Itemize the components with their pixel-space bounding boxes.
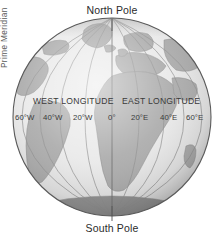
prime-meridian-label: Prime Meridian — [0, 0, 14, 76]
longitude-tick-40: 40°E — [160, 113, 177, 122]
longitude-tick--60: 60°W — [15, 113, 35, 122]
longitude-tick-20: 20°E — [131, 113, 148, 122]
longitude-tick-60: 60°E — [186, 113, 203, 122]
longitude-tick--20: 20°W — [73, 113, 93, 122]
east-longitude-label: EAST LONGITUDE — [122, 96, 200, 106]
longitude-tick-0: 0° — [108, 113, 116, 122]
north-pole-label: North Pole — [0, 4, 224, 16]
west-longitude-label: WEST LONGITUDE — [33, 96, 114, 106]
longitude-tick--40: 40°W — [43, 113, 63, 122]
south-pole-label: South Pole — [0, 222, 224, 234]
globe-diagram: North Pole South Pole WEST LONGITUDE EAS… — [0, 0, 224, 240]
